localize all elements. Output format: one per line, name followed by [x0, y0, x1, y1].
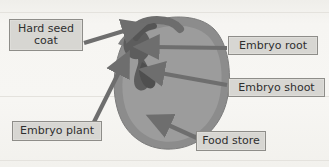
- label-embryo-shoot[interactable]: Embryo shoot: [228, 78, 325, 97]
- arrow-embryo-root: [155, 47, 227, 48]
- label-embryo-root[interactable]: Embryo root: [228, 36, 318, 55]
- label-hard-seed-coat[interactable]: Hard seed coat: [9, 19, 83, 51]
- label-food-store[interactable]: Food store: [196, 131, 266, 151]
- label-embryo-plant[interactable]: Embryo plant: [12, 121, 102, 141]
- seed-diagram-page: Hard seed coat Embryo root Embryo shoot …: [0, 0, 329, 167]
